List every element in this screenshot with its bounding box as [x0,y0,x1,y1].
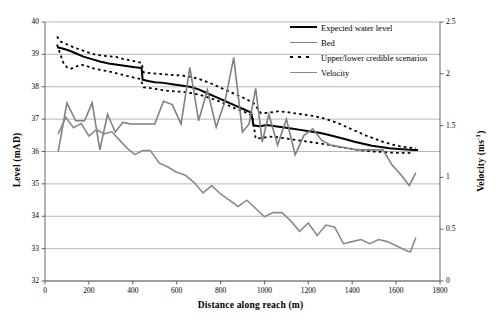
legend-swatch-icon [288,67,318,78]
y-axis-right-tick-label: 1.5 [446,121,470,130]
x-axis-tick-label: 600 [162,286,192,295]
legend-item: Expected water level [288,20,458,35]
x-axis-tick-label: 200 [74,286,104,295]
x-axis-tick-label: 1600 [381,286,411,295]
y-axis-left-tick-label: 32 [15,276,39,285]
x-axis-title: Distance along reach (m) [0,300,501,310]
legend-swatch-icon [288,52,318,63]
legend-item-label: Expected water level [318,23,392,33]
y-axis-left-tick-label: 38 [15,82,39,91]
y-axis-right-tick-label: 1 [446,172,470,181]
y-axis-left-tick-label: 36 [15,147,39,156]
x-axis-tick-label: 0 [30,286,60,295]
chart-legend: Expected water levelBedUpper/lower credi… [288,20,458,80]
legend-item-label: Upper/lower credible scenarios [318,53,427,63]
y-axis-right-title: Velocity (ms-1) [474,101,486,221]
y-axis-left-tick-label: 33 [15,244,39,253]
x-axis-tick-label: 1000 [249,286,279,295]
y-axis-left-title: Level (mAD) [12,110,22,210]
x-axis-tick-label: 1400 [337,286,367,295]
chart-figure: Expected water levelBedUpper/lower credi… [0,0,501,324]
legend-item-label: Velocity [318,68,349,78]
y-axis-right-tick-label: 0 [446,276,470,285]
y-axis-left-tick-label: 37 [15,114,39,123]
y-axis-left-tick-label: 34 [15,211,39,220]
x-axis-tick-label: 400 [118,286,148,295]
y-axis-right-tick-label: 2.5 [446,17,470,26]
legend-item: Bed [288,35,458,50]
legend-item: Upper/lower credible scenarios [288,50,458,65]
y-axis-left-tick-label: 39 [15,49,39,58]
y-axis-left-tick-label: 40 [15,17,39,26]
series-velocity [58,117,416,252]
x-axis-tick-label: 800 [206,286,236,295]
legend-swatch-icon [288,37,318,48]
y-axis-left-tick-label: 35 [15,179,39,188]
y-axis-right-tick-label: 2 [446,69,470,78]
legend-swatch-icon [288,22,318,33]
x-axis-tick-label: 1200 [293,286,323,295]
y-axis-right-tick-label: 0.5 [446,224,470,233]
x-axis-tick-label: 1800 [425,286,455,295]
legend-item-label: Bed [318,38,335,48]
legend-item: Velocity [288,65,458,80]
